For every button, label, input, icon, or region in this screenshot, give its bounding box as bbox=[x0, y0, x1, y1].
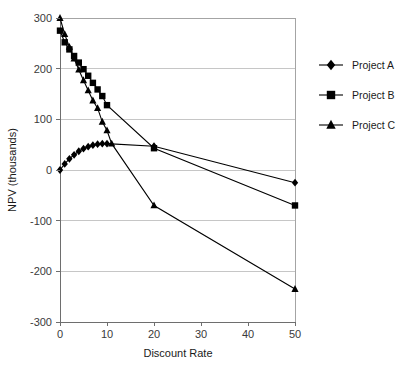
legend-label: Project B bbox=[352, 89, 395, 101]
marker-square bbox=[85, 73, 91, 79]
marker-diamond bbox=[292, 179, 298, 187]
marker-triangle bbox=[94, 104, 101, 111]
marker-square bbox=[57, 27, 63, 33]
marker-square bbox=[94, 86, 100, 92]
marker-square bbox=[151, 145, 157, 151]
y-tick-label: 0 bbox=[46, 164, 52, 176]
marker-diamond bbox=[327, 60, 336, 70]
y-axis-title: NPV (thousands) bbox=[6, 128, 18, 212]
chart-legend: Project AProject BProject C bbox=[319, 59, 396, 131]
marker-square bbox=[90, 80, 96, 86]
marker-triangle bbox=[56, 14, 63, 21]
y-tick-label: 200 bbox=[34, 63, 52, 75]
x-tick-label: 20 bbox=[148, 328, 160, 340]
marker-triangle bbox=[85, 86, 92, 93]
legend-label: Project C bbox=[352, 119, 396, 131]
y-axis-ticks: -300-200-1000100200300 bbox=[30, 12, 60, 328]
npv-chart: 01020304050 -300-200-1000100200300 Disco… bbox=[0, 0, 402, 367]
marker-triangle bbox=[326, 120, 335, 129]
legend-item-project-a[interactable]: Project A bbox=[319, 59, 394, 71]
marker-triangle bbox=[103, 126, 110, 133]
legend-item-project-c[interactable]: Project C bbox=[319, 119, 396, 131]
y-tick-label: -100 bbox=[30, 215, 52, 227]
x-tick-label: 0 bbox=[57, 328, 63, 340]
x-tick-label: 30 bbox=[195, 328, 207, 340]
x-axis-title: Discount Rate bbox=[143, 347, 212, 359]
marker-square bbox=[327, 91, 335, 99]
series-project-b bbox=[57, 27, 298, 208]
series-line bbox=[60, 18, 295, 289]
y-tick-label: -200 bbox=[30, 265, 52, 277]
chart-canvas: 01020304050 -300-200-1000100200300 Disco… bbox=[0, 0, 402, 367]
x-tick-label: 40 bbox=[242, 328, 254, 340]
marker-square bbox=[292, 202, 298, 208]
x-tick-label: 50 bbox=[289, 328, 301, 340]
marker-diamond bbox=[90, 141, 96, 149]
gridlines-group bbox=[60, 69, 295, 272]
legend-label: Project A bbox=[352, 59, 394, 71]
y-tick-label: 300 bbox=[34, 12, 52, 24]
y-tick-label: 100 bbox=[34, 113, 52, 125]
series-layer bbox=[56, 14, 298, 292]
series-line bbox=[60, 144, 295, 183]
marker-triangle bbox=[99, 118, 106, 125]
series-project-c bbox=[56, 14, 298, 292]
legend-item-project-b[interactable]: Project B bbox=[319, 89, 395, 101]
marker-square bbox=[99, 93, 105, 99]
marker-square bbox=[104, 102, 110, 108]
x-tick-label: 10 bbox=[101, 328, 113, 340]
marker-triangle bbox=[291, 285, 298, 292]
x-axis-ticks: 01020304050 bbox=[57, 322, 301, 340]
series-line bbox=[60, 31, 295, 206]
series-project-a bbox=[57, 140, 298, 187]
marker-triangle bbox=[89, 97, 96, 104]
y-tick-label: -300 bbox=[30, 316, 52, 328]
